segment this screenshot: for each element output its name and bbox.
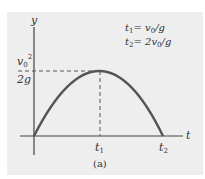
svg-text:v02: v02 bbox=[17, 53, 32, 69]
trajectory-curve bbox=[34, 71, 163, 136]
y-axis-label: y bbox=[30, 14, 38, 27]
svg-text:2g: 2g bbox=[16, 73, 31, 86]
figure-caption: (a) bbox=[93, 158, 107, 169]
t-axis-label: t bbox=[186, 129, 191, 142]
equation-t1: t1= v0/g bbox=[125, 22, 165, 35]
t2-tick-label: t2 bbox=[159, 141, 168, 155]
trajectory-diagram: y t v02 2g t1 t2 t1= v0/g t2= 2v0/g (a) bbox=[0, 0, 205, 179]
t1-tick-label: t1 bbox=[95, 141, 104, 155]
equation-t2: t2= 2v0/g bbox=[125, 36, 171, 49]
max-height-label: v02 2g bbox=[16, 53, 32, 86]
